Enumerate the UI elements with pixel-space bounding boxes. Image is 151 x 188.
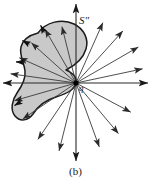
region-label-S-double-prime: S″ <box>79 15 89 26</box>
figure-container: S″ q (b) <box>0 0 151 188</box>
point-label-q: q <box>79 84 84 93</box>
figure-caption: (b) <box>0 166 151 177</box>
vector-field-diagram <box>0 0 151 188</box>
point-marker-q <box>73 80 78 85</box>
